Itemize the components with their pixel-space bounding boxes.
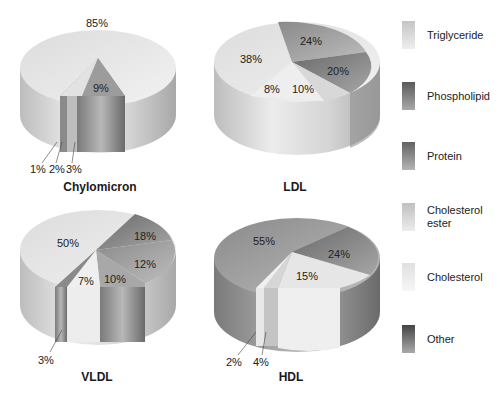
legend-item-protein: Protein	[402, 141, 497, 171]
legend-label: Cholesterol	[427, 271, 497, 284]
label-10: 10%	[292, 83, 314, 95]
label-12: 12%	[134, 258, 156, 270]
pie-chylomicron: 85% 9% 1% 2% 3%	[0, 0, 200, 200]
legend-label: Cholesterol ester	[427, 204, 497, 230]
label-18: 18%	[134, 230, 156, 242]
label-15: 15%	[296, 270, 318, 282]
legend-swatch-cholesterol-ester	[402, 203, 415, 231]
label-20: 20%	[327, 65, 349, 77]
legend-swatch-triglyceride	[402, 21, 415, 49]
legend-item-cholesterol-ester: Cholesterol ester	[402, 202, 497, 232]
label-8: 8%	[264, 83, 280, 95]
chart-title-hdl: HDL	[211, 370, 371, 384]
label-38: 38%	[240, 53, 262, 65]
label-2: 2%	[49, 163, 65, 175]
label-55: 55%	[253, 235, 275, 247]
legend-item-cholesterol: Cholesterol	[402, 262, 497, 292]
label-4: 4%	[253, 356, 269, 368]
legend-swatch-protein	[402, 142, 415, 170]
legend-item-triglyceride: Triglyceride	[402, 20, 497, 50]
label-85: 85%	[86, 17, 108, 29]
legend-swatch-phospholipid	[402, 82, 415, 110]
chart-chylomicron: 85% 9% 1% 2% 3% Chylomicron	[0, 0, 200, 200]
chart-title-ldl: LDL	[215, 180, 375, 194]
chart-hdl: 55% 24% 15% 2% 4% HDL	[200, 200, 400, 399]
legend-label: Other	[427, 333, 497, 346]
label-24: 24%	[328, 248, 350, 260]
label-9: 9%	[93, 82, 109, 94]
legend-item-other: Other	[402, 324, 497, 354]
chart-title-vldl: VLDL	[17, 370, 177, 384]
legend-label: Protein	[427, 150, 497, 163]
pie-ldl: 24% 38% 20% 8% 10%	[200, 0, 400, 200]
legend-label: Triglyceride	[427, 29, 497, 42]
label-2: 2%	[226, 356, 242, 368]
legend-item-phospholipid: Phospholipid	[402, 81, 497, 111]
chart-title-chylomicron: Chylomicron	[20, 180, 180, 194]
chart-vldl: 50% 18% 12% 7% 10% 3% VLDL	[0, 200, 200, 399]
label-50: 50%	[57, 237, 79, 249]
label-24: 24%	[300, 35, 322, 47]
label-7: 7%	[78, 275, 94, 287]
label-3: 3%	[66, 163, 82, 175]
legend: Triglyceride Phospholipid Protein Choles…	[400, 0, 503, 399]
label-10: 10%	[104, 273, 126, 285]
label-3: 3%	[38, 354, 54, 366]
legend-label: Phospholipid	[427, 90, 497, 103]
chart-ldl: 24% 38% 20% 8% 10% LDL	[200, 0, 400, 200]
legend-swatch-cholesterol	[402, 263, 415, 291]
legend-swatch-other	[402, 325, 415, 353]
label-1: 1%	[30, 163, 46, 175]
